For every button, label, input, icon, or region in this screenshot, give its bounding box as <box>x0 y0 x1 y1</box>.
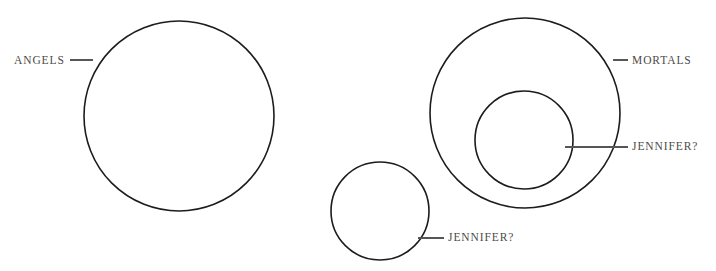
jennifer-small-circle <box>331 162 429 260</box>
mortals-circle <box>430 18 620 208</box>
angels-circle <box>84 21 274 211</box>
diagram-svg <box>0 0 716 271</box>
diagram-canvas: ANGELS MORTALS JENNIFER? JENNIFER? <box>0 0 716 271</box>
jennifer-inner-circle <box>475 91 573 189</box>
label-angels: ANGELS <box>14 55 65 67</box>
label-jennifer-inner: JENNIFER? <box>632 141 698 153</box>
label-jennifer-small: JENNIFER? <box>448 232 514 244</box>
label-mortals: MORTALS <box>632 55 692 67</box>
